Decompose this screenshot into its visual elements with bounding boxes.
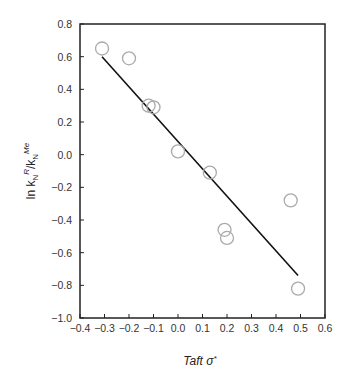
y-axis: −1.0−0.8−0.6−0.4−0.20.00.20.40.60.8 [51,18,84,324]
x-axis-title: Taft σ* [183,354,217,368]
data-point-marker [123,52,136,65]
x-tick-label: 0.6 [318,322,333,334]
x-tick-label: 0.2 [220,322,235,334]
y-tick-label: 0.6 [57,51,72,63]
x-tick-label: −0.3 [94,322,115,334]
y-axis-title: ln kNR/kNMe [22,142,40,199]
data-point-marker [218,223,231,236]
regression-line [102,57,298,276]
data-point-marker [221,231,234,244]
data-point-marker [96,42,109,55]
data-points [96,42,305,295]
y-tick-label: −0.6 [51,247,72,259]
y-tick-label: −0.2 [51,181,72,193]
plot-frame [80,24,325,318]
y-tick-label: −0.4 [51,214,72,226]
x-axis: −0.4−0.3−0.2−0.10.00.10.20.30.40.50.6 [70,314,333,334]
x-tick-label: −0.2 [119,322,140,334]
data-point-marker [292,282,305,295]
scatter-chart: −1.0−0.8−0.6−0.4−0.20.00.20.40.60.8 −0.4… [0,0,352,381]
data-point-marker [172,145,185,158]
y-tick-label: 0.0 [57,149,72,161]
y-tick-label: 0.2 [57,116,72,128]
data-point-marker [147,101,160,114]
y-tick-label: −0.8 [51,279,72,291]
x-tick-label: 0.1 [195,322,210,334]
y-tick-label: 0.8 [57,18,72,30]
x-tick-label: 0.4 [269,322,284,334]
y-tick-label: 0.4 [57,83,72,95]
x-tick-label: −0.4 [70,322,91,334]
fit-line [102,57,298,276]
x-tick-label: 0.0 [171,322,186,334]
x-tick-label: −0.1 [143,322,164,334]
plot-area [80,24,325,318]
x-tick-label: 0.5 [293,322,308,334]
data-point-marker [284,194,297,207]
x-tick-label: 0.3 [244,322,259,334]
